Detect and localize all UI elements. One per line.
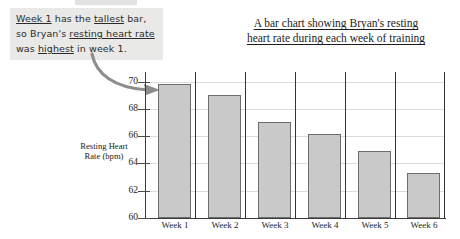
bar-week-4[interactable] (308, 134, 341, 218)
y-axis-title-line-1: Resting Heart (68, 141, 140, 151)
bar-week-5[interactable] (358, 151, 391, 218)
bar-week-2[interactable] (208, 95, 241, 218)
x-axis-line (139, 218, 446, 219)
category-separator-5 (395, 72, 396, 219)
x-tick-label-week-6: Week 6 (396, 220, 452, 230)
y-axis-title-line-2: Rate (bpm) (68, 151, 140, 161)
x-tick-label-week-4: Week 4 (297, 220, 353, 230)
y-tick-label-68: 68 (98, 103, 138, 113)
category-separator-3 (295, 72, 296, 219)
chart-title: A bar chart showing Bryan's resting hear… (222, 16, 450, 46)
chart-title-line-1: A bar chart showing Bryan's resting (254, 17, 419, 29)
annotation-rhr-emphasis: resting heart rate (69, 28, 154, 39)
category-separator-4 (345, 72, 346, 219)
screenshot-canvas: Week 1 has the tallest bar, so Bryan's r… (0, 0, 460, 239)
annotation-line-1: Week 1 has the tallest bar, (16, 11, 157, 26)
x-tick-label-week-1: Week 1 (147, 220, 203, 230)
annotation-tallest-emphasis: tallest (94, 13, 124, 24)
y-tick-label-70: 70 (98, 76, 138, 86)
y-tick-70 (138, 82, 150, 83)
category-separator-2 (245, 72, 246, 219)
annotation-highest-emphasis: highest (38, 43, 74, 54)
x-tick-label-week-2: Week 2 (197, 220, 253, 230)
bar-week-1[interactable] (158, 84, 191, 218)
bar-week-3[interactable] (258, 122, 291, 218)
x-tick-label-week-5: Week 5 (347, 220, 403, 230)
annotation-week-emphasis: Week 1 (16, 13, 52, 24)
bar-week-6[interactable] (407, 173, 440, 218)
y-tick-label-60: 60 (98, 212, 138, 222)
x-tick-label-week-3: Week 3 (247, 220, 303, 230)
y-tick-66 (138, 136, 150, 137)
y-tick-68 (138, 109, 150, 110)
callout-arrow-icon (88, 52, 168, 98)
annotation-line-2: so Bryan's resting heart rate (16, 26, 157, 41)
y-axis-title: Resting Heart Rate (bpm) (68, 141, 140, 161)
category-separator-1 (195, 72, 196, 219)
y-tick-60 (138, 218, 150, 219)
y-tick-64 (138, 163, 150, 164)
y-tick-label-66: 66 (98, 130, 138, 140)
y-tick-label-62: 62 (98, 185, 138, 195)
y-tick-62 (138, 191, 150, 192)
cropped-element-top (75, 0, 137, 5)
chart-title-line-2: heart rate during each week of training (247, 32, 425, 44)
y-axis-line (145, 72, 146, 219)
plot-right-border (444, 72, 445, 219)
